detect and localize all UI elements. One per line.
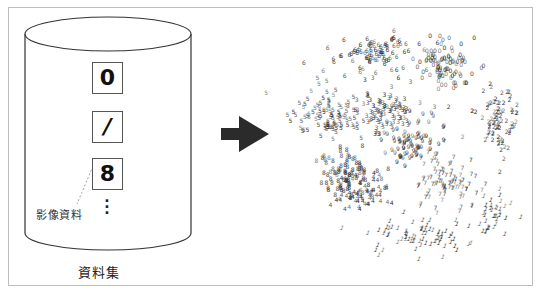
embedding-point: 2	[481, 88, 485, 94]
embedding-point: 7	[442, 138, 446, 144]
embedding-point: 5	[264, 90, 268, 96]
embedding-point: 6	[431, 52, 435, 58]
embedding-point: 9	[395, 126, 399, 132]
embedding-point: 4	[385, 185, 389, 191]
embedding-point: 6	[358, 65, 362, 71]
embedding-point: 6	[347, 52, 351, 58]
embedding-point: 6	[321, 68, 325, 74]
embedding-point: 9	[385, 131, 389, 137]
embedding-point: 8	[322, 170, 326, 176]
embedding-point: 1	[508, 200, 515, 206]
embedding-point: 2	[496, 137, 500, 143]
embedding-point: 7	[422, 175, 426, 181]
embedding-point: 7	[438, 191, 442, 197]
embedding-point: 0	[463, 80, 467, 86]
embedding-point: 0	[459, 41, 463, 47]
embedding-point: 0	[428, 33, 432, 39]
embedding-point: 0	[470, 71, 474, 77]
embedding-point: 2	[447, 104, 451, 110]
embedding-point: 3	[383, 103, 387, 109]
embedding-point: 2	[502, 100, 506, 106]
embedding-point: 5	[334, 125, 338, 131]
embedding-point: 4	[343, 206, 347, 212]
embedding-point: 3	[418, 100, 422, 106]
embedding-point: 3	[377, 119, 381, 125]
embedding-point: 1	[439, 234, 446, 240]
right-arrow-icon	[220, 115, 272, 155]
embedding-point: 1	[491, 224, 498, 230]
embedding-point: 9	[420, 135, 424, 141]
embedding-point: 3	[403, 96, 407, 102]
embedding-point: 6	[396, 39, 400, 45]
embedding-point: 6	[326, 45, 330, 51]
embedding-point: 5	[338, 112, 342, 118]
embedding-point: 7	[426, 149, 430, 155]
embedding-point: 6	[390, 67, 394, 73]
embedding-point: 4	[379, 198, 383, 204]
embedding-point: 4	[329, 202, 333, 208]
embedding-point: 4	[340, 192, 344, 198]
embedding-point: 0	[416, 64, 420, 70]
embedding-point: 5	[317, 122, 321, 128]
more-samples-ellipsis: ···	[104, 198, 110, 216]
embedding-point: 5	[327, 102, 331, 108]
embedding-point: 6	[342, 37, 346, 43]
embedding-point: 2	[515, 110, 519, 116]
embedding-point: 6	[381, 51, 385, 57]
embedding-point: 2	[498, 169, 502, 175]
embedding-point: 7	[435, 158, 439, 164]
embedding-point: 8	[362, 170, 366, 176]
embedding-point: 5	[331, 136, 335, 142]
embedding-point: 2	[490, 116, 494, 122]
embedding-point: 8	[315, 158, 319, 164]
embedding-point: 9	[424, 133, 428, 139]
embedding-point: 9	[421, 111, 425, 117]
embedding-point: 4	[367, 201, 371, 207]
embedding-point: 0	[438, 48, 442, 54]
embedding-point: 3	[375, 125, 379, 131]
embedding-point: 8	[331, 158, 335, 164]
embedding-point: 5	[323, 122, 327, 128]
embedding-point: 3	[395, 96, 399, 102]
embedding-point: 6	[302, 60, 306, 66]
embedding-point: 6	[401, 65, 405, 71]
embedding-point: 0	[460, 58, 464, 64]
embedding-point: 5	[321, 95, 325, 101]
embedding-point: 6	[425, 67, 429, 73]
embedding-point: 8	[386, 166, 390, 172]
embedding-point: 2	[506, 145, 510, 151]
embedding-point: 6	[383, 61, 387, 67]
embedding-point: 9	[437, 141, 441, 147]
embedding-point: 6	[422, 47, 426, 53]
embedding-point: 6	[368, 59, 372, 65]
embedding-point: 4	[386, 199, 390, 205]
embedding-point: 9	[403, 163, 407, 169]
embedding-point: 9	[390, 103, 394, 109]
embedding-point: 9	[428, 137, 432, 143]
embedding-point: 7	[417, 182, 421, 188]
embedding-point: 4	[347, 190, 351, 196]
embedding-point: 4	[347, 204, 351, 210]
embedding-point: 3	[346, 103, 350, 109]
embedding-point: 6	[406, 48, 410, 54]
embedding-point: 7	[430, 158, 434, 164]
embedding-point: 2	[500, 90, 504, 96]
embedding-point: 0	[435, 67, 439, 73]
embedding-point: 7	[426, 175, 430, 181]
embedding-point: 1	[502, 215, 509, 221]
embedding-point: 5	[302, 127, 306, 133]
embedding-point: 7	[447, 161, 451, 167]
embedding-point: 2	[488, 81, 492, 87]
embedding-point: 3	[372, 103, 376, 109]
embedding-point: 3	[361, 101, 365, 107]
embedding-point: 2	[487, 130, 491, 136]
embedding-point: 6	[390, 36, 394, 42]
embedding-point: 7	[450, 168, 454, 174]
embedding-point: 1	[338, 225, 345, 231]
embedding-point: 7	[475, 190, 479, 196]
embedding-point: 1	[410, 219, 417, 225]
embedding-point: 3	[371, 75, 375, 81]
embedding-point: 6	[396, 75, 400, 81]
embedding-point: 0	[428, 72, 432, 78]
embedding-point: 5	[294, 112, 298, 118]
